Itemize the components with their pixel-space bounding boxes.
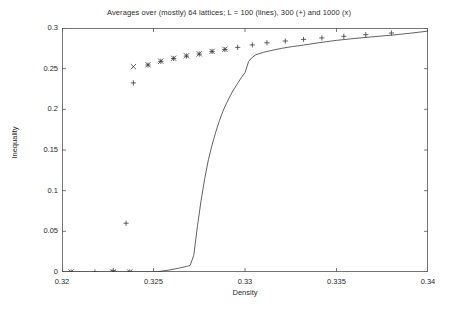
- y-tick-label: 0.2: [28, 104, 58, 113]
- x-tick-label: 0.325: [144, 277, 163, 286]
- series-markers-L1000: [69, 47, 228, 272]
- y-axis-label: Inequality: [10, 103, 19, 183]
- x-tick-label: 0.335: [327, 277, 346, 286]
- series-markers-L300: [69, 30, 394, 272]
- y-tick-label: 0.25: [28, 64, 58, 73]
- y-tick-label: 0.15: [28, 145, 58, 154]
- chart-figure: Averages over (mostly) 64 lattices; L = …: [0, 0, 458, 312]
- series-line-L100: [62, 31, 428, 272]
- y-tick-label: 0.1: [28, 186, 58, 195]
- axes-frame: [63, 29, 428, 272]
- x-axis-label: Density: [62, 288, 428, 297]
- x-tick-label: 0.33: [238, 277, 253, 286]
- plot-area: [62, 28, 428, 272]
- y-tick-label: 0: [28, 267, 58, 276]
- y-tick-label: 0.05: [28, 226, 58, 235]
- x-tick-label: 0.34: [421, 277, 436, 286]
- chart-title: Averages over (mostly) 64 lattices; L = …: [0, 8, 458, 17]
- y-tick-label: 0.3: [28, 23, 58, 32]
- x-tick-label: 0.32: [55, 277, 70, 286]
- plot-canvas: [62, 28, 428, 272]
